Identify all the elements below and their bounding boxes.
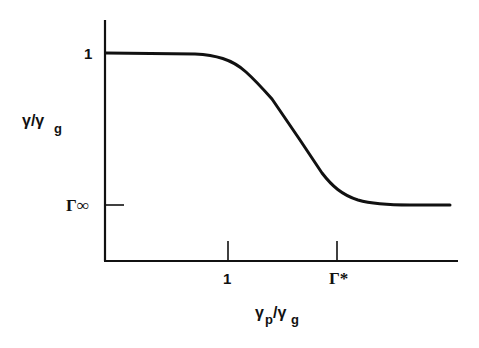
x-axis-title-gamma: γ: [255, 304, 264, 321]
x-axis-title-subscript-p: p: [265, 312, 273, 327]
y-axis-title-main: γ/γ: [22, 112, 44, 129]
data-curve: [106, 53, 450, 205]
y-axis-title-subscript: g: [54, 121, 62, 136]
y-axis-title: γ/γ g: [22, 112, 62, 136]
chart-plot-area: 1 Γ∞ 1 Γ* γ/γ g γ p /γ g: [0, 0, 479, 348]
x-axis-title-subscript-g: g: [291, 312, 299, 327]
y-tick-label-1: 1: [84, 45, 92, 62]
x-tick-label-gamma-star: Γ*: [329, 269, 348, 288]
y-tick-label-gamma-infinity: Γ∞: [66, 196, 89, 215]
x-axis-title: γ p /γ g: [255, 304, 299, 327]
x-axis-title-slash-gamma: /γ: [273, 304, 286, 321]
x-tick-label-1: 1: [223, 270, 231, 287]
